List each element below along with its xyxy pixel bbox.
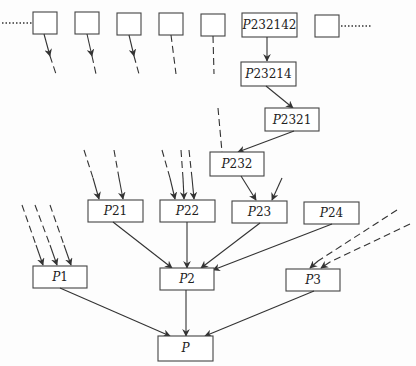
empty-node-2 <box>75 12 99 34</box>
svg-text:P2321: P2321 <box>272 113 312 127</box>
node-P: P <box>158 336 213 361</box>
node-P24: P24 <box>304 202 359 224</box>
node-P3: P3 <box>286 269 340 291</box>
node-P1: P1 <box>33 266 87 288</box>
node-P2321: P2321 <box>265 108 319 131</box>
node-P21: P21 <box>88 200 143 222</box>
empty-node-4 <box>159 13 183 35</box>
svg-text:P21: P21 <box>103 204 127 218</box>
node-P232: P232 <box>210 152 264 176</box>
svg-text:P23: P23 <box>247 205 271 219</box>
svg-text:P22: P22 <box>175 204 199 218</box>
svg-text:P232142: P232142 <box>242 18 297 32</box>
goal-tree-diagram: P232142 P23214 P2321 P232 P21 P22 <box>0 0 416 366</box>
svg-text:P1: P1 <box>51 270 68 284</box>
empty-node-5 <box>201 14 225 36</box>
empty-node-7 <box>315 15 339 37</box>
svg-text:P: P <box>180 341 190 355</box>
node-P23: P23 <box>232 201 287 223</box>
svg-text:P3: P3 <box>304 273 321 287</box>
svg-text:P232: P232 <box>221 157 253 171</box>
svg-text:P2: P2 <box>178 272 195 286</box>
node-P232142: P232142 <box>242 13 297 37</box>
empty-node-1 <box>33 12 57 34</box>
empty-node-3 <box>117 13 141 35</box>
node-P23214: P23214 <box>241 62 296 86</box>
node-P2: P2 <box>160 268 214 290</box>
node-P22: P22 <box>160 200 215 222</box>
svg-text:P23214: P23214 <box>244 67 292 81</box>
svg-text:P24: P24 <box>319 206 344 220</box>
